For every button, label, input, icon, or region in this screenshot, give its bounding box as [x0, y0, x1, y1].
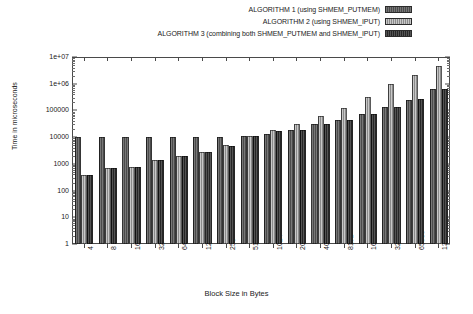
x-axis-tick-mark [367, 244, 368, 248]
y-axis-minor-tick [72, 116, 75, 117]
bar-series-1-8192 [335, 120, 341, 244]
bar-series-1-128 [193, 137, 199, 244]
x-axis-tick-mark [131, 244, 132, 248]
y-axis-minor-tick [447, 60, 450, 61]
x-axis-tick-mark [131, 57, 132, 61]
x-axis-tick-mark [391, 57, 392, 61]
x-axis-tick-mark [202, 57, 203, 61]
bar-series-1-2048 [288, 130, 294, 244]
x-axis-tick-mark [415, 244, 416, 248]
x-axis-tick-mark [438, 57, 439, 61]
bar-series-3-2048 [300, 130, 306, 244]
bar-series-1-4096 [311, 124, 317, 244]
x-axis-tick-mark [107, 57, 108, 61]
y-axis-minor-tick [447, 86, 450, 87]
x-axis-tick-mark [155, 57, 156, 61]
x-axis-tick-label: 8 [110, 246, 118, 250]
legend-label: ALGORITHM 3 (combining both SHMEM_PUTMEM… [158, 29, 380, 38]
y-axis-minor-tick [447, 58, 450, 59]
bar-series-3-16384 [371, 114, 377, 244]
bar-series-1-131072 [430, 89, 436, 244]
plot-area [72, 57, 450, 244]
bar-series-1-256 [217, 137, 223, 244]
y-axis-minor-tick [72, 58, 75, 59]
y-axis-minor-tick [72, 92, 75, 93]
y-axis-minor-tick [72, 88, 75, 89]
y-axis-minor-tick [72, 85, 75, 86]
bar-chart: ALGORITHM 1 (using SHMEM_PUTMEM) ALGORIT… [0, 0, 473, 314]
x-axis-tick-mark [107, 244, 108, 248]
x-axis-tick-mark [84, 57, 85, 61]
y-axis-tick-label: 1e+06 [49, 80, 69, 88]
bar-series-3-256 [229, 146, 235, 244]
x-axis-tick-mark [367, 57, 368, 61]
x-axis-tick-mark [178, 244, 179, 248]
y-axis-minor-tick [72, 112, 75, 113]
y-axis-minor-tick [72, 65, 75, 66]
legend-item-algorithm-1: ALGORITHM 1 (using SHMEM_PUTMEM) [249, 4, 412, 15]
x-axis-tick-mark [320, 57, 321, 61]
bar-series-3-131072 [442, 89, 448, 244]
y-axis-minor-tick [72, 61, 75, 62]
y-axis-minor-tick [447, 71, 450, 72]
bar-series-1-4 [75, 137, 81, 244]
y-axis-minor-tick [72, 60, 75, 61]
legend-swatch-series-1 [385, 6, 412, 13]
y-axis-tick-label: 10 [61, 213, 69, 221]
y-axis-tick-mark [445, 57, 450, 58]
legend-label: ALGORITHM 2 (using SHMEM_IPUT) [263, 17, 380, 26]
y-axis-minor-tick [72, 71, 75, 72]
y-axis-minor-tick [447, 65, 450, 66]
x-axis-tick-mark [273, 244, 274, 248]
x-axis-tick-mark [226, 57, 227, 61]
bar-series-3-32768 [394, 107, 400, 244]
y-axis-minor-tick [72, 98, 75, 99]
x-axis-tick-mark [249, 244, 250, 248]
y-axis-minor-tick [72, 124, 75, 125]
bar-series-1-32 [146, 137, 152, 244]
bar-series-3-4096 [324, 124, 330, 244]
x-axis-tick-mark [178, 57, 179, 61]
y-axis-tick-mark [72, 57, 77, 58]
legend-label: ALGORITHM 1 (using SHMEM_PUTMEM) [249, 5, 380, 14]
x-axis-tick-mark [344, 244, 345, 248]
y-axis-tick-label: 100 [57, 187, 69, 195]
y-axis-minor-tick [72, 121, 75, 122]
x-axis-tick-mark [438, 244, 439, 248]
y-axis-ticks: 1101001000100001000001e+061e+07 [0, 57, 69, 244]
bar-series-1-1024 [264, 134, 270, 244]
bar-series-3-65536 [418, 99, 424, 244]
bar-series-3-1024 [276, 131, 282, 244]
bar-series-1-512 [241, 136, 247, 244]
y-axis-minor-tick [72, 115, 75, 116]
y-axis-minor-tick [72, 118, 75, 119]
bar-series-3-512 [253, 136, 259, 244]
bar-series-3-8 [111, 168, 117, 244]
y-axis-minor-tick [447, 61, 450, 62]
y-axis-minor-tick [72, 102, 75, 103]
x-axis-title: Block Size in Bytes [0, 289, 473, 298]
y-axis-minor-tick [72, 63, 75, 64]
bar-series-1-16384 [359, 114, 365, 244]
x-axis-tick-mark [320, 244, 321, 248]
x-axis-tick-mark [155, 244, 156, 248]
y-axis-tick-label: 1e+07 [49, 53, 69, 61]
bar-series-3-128 [205, 152, 211, 244]
bar-series-1-64 [170, 137, 176, 244]
y-axis-tick-mark [445, 83, 450, 84]
legend-item-algorithm-3: ALGORITHM 3 (combining both SHMEM_PUTMEM… [158, 28, 412, 39]
y-axis-minor-tick [447, 63, 450, 64]
y-axis-tick-label: 100000 [46, 106, 69, 114]
x-axis-tick-mark [84, 244, 85, 248]
legend-item-algorithm-2: ALGORITHM 2 (using SHMEM_IPUT) [263, 16, 412, 27]
bar-series-3-16 [135, 167, 141, 244]
x-axis-tick-mark [415, 57, 416, 61]
bar-series-3-32 [158, 160, 164, 244]
bar-series-3-64 [182, 156, 188, 244]
y-axis-minor-tick [72, 76, 75, 77]
x-axis-tick-mark [296, 244, 297, 248]
y-axis-tick-label: 1 [65, 240, 69, 248]
bar-series-3-4 [87, 175, 93, 244]
y-axis-tick-mark [72, 83, 77, 84]
chart-legend: ALGORITHM 1 (using SHMEM_PUTMEM) ALGORIT… [0, 4, 473, 40]
